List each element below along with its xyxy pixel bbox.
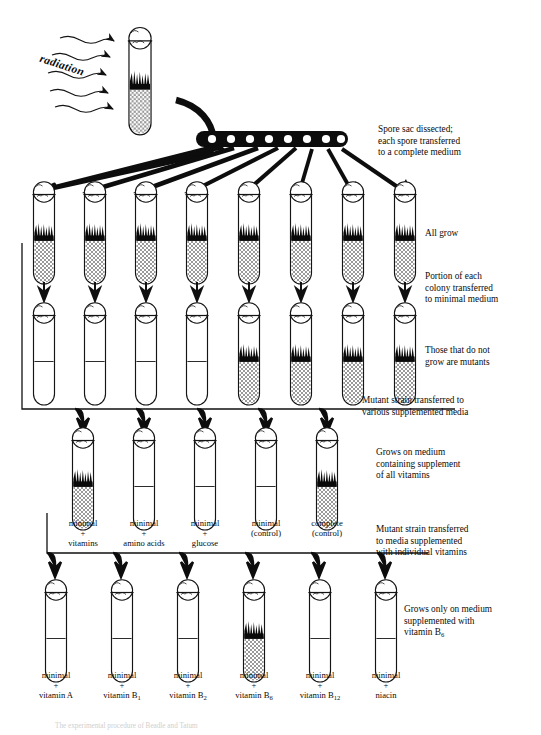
subscript-12: 12 <box>334 694 341 701</box>
tube-label-vitamin-b12: minimal + vitamin B12 <box>284 670 356 703</box>
caption-spore-sac: Spore sac dissected; each spore transfer… <box>378 124 461 159</box>
subscript-6: 6 <box>269 694 272 701</box>
caption-all-grow: All grow <box>425 228 458 240</box>
row-complete-medium <box>32 182 416 284</box>
tube-label-vitamin-b2: minimal + vitamin B2 <box>152 670 224 703</box>
tube-label-vitamin-b1: minimal + vitamin B1 <box>86 670 158 703</box>
caption-mutant-individual-vitamins: Mutant strain transferred to media suppl… <box>376 524 468 559</box>
caption-portion-transferred: Portion of each colony transferred to mi… <box>425 271 498 306</box>
figure-bottom-caption: The experimental procedure of Beadle and… <box>55 722 198 730</box>
row-individual-vitamins <box>44 580 397 682</box>
row-supplemented-media <box>71 428 338 530</box>
irradiated-culture-tube <box>128 28 152 135</box>
caption-grows-b6-only: Grows only on medium supplemented with v… <box>404 604 492 640</box>
row1-to-row2-arrows <box>39 282 410 301</box>
tube-label-vitamin-a: minimal + vitamin A <box>20 670 92 701</box>
caption-those-not-grow: Those that do not grow are mutants <box>425 345 490 368</box>
vitamin-routing-drop-arrows <box>47 553 391 577</box>
figure-canvas: radiation Spore sac dissected; each spor… <box>0 0 541 735</box>
tube-label-niacin: minimal + niacin <box>350 670 422 701</box>
subscript-1: 1 <box>137 694 140 701</box>
tube-label-vitamin-b6: minimal + vitamin B6 <box>218 670 290 703</box>
caption-grows-all-vitamins: Grows on medium containing supplement of… <box>376 447 460 482</box>
spore-sac-with-eight-spores <box>196 131 348 147</box>
b6-subscript: 6 <box>441 631 444 638</box>
tube-label-complete-control: complete (control) <box>291 518 363 538</box>
subscript-2: 2 <box>203 694 206 701</box>
row-minimal-medium <box>32 303 416 405</box>
caption-mutant-various-media: Mutant strain transferred to various sup… <box>362 395 468 418</box>
